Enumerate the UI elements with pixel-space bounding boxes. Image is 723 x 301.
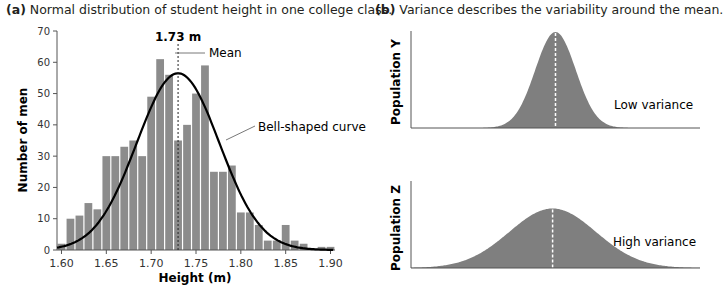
svg-text:1.85: 1.85 (273, 257, 298, 270)
population-z-plot: Population Z High variance (389, 181, 700, 271)
mean-value-label: 1.73 m (155, 30, 201, 44)
svg-text:60: 60 (37, 57, 50, 68)
svg-text:1.80: 1.80 (229, 257, 254, 270)
population-y-label: Population Y (389, 39, 403, 125)
histogram-bar (120, 147, 128, 250)
svg-text:70: 70 (37, 26, 50, 37)
histogram-bar (111, 156, 119, 250)
histogram-bar (201, 65, 209, 250)
svg-text:50: 50 (37, 88, 50, 99)
svg-text:30: 30 (37, 151, 50, 162)
svg-text:1.70: 1.70 (139, 257, 164, 270)
svg-text:1.60: 1.60 (49, 257, 74, 270)
histogram-bar (282, 225, 290, 250)
svg-text:20: 20 (37, 182, 50, 193)
y-axis-label: Number of men (16, 88, 30, 193)
histogram-bar (165, 75, 173, 250)
histogram-bar (102, 156, 110, 250)
histogram-bar (183, 125, 191, 250)
histogram-bar (93, 209, 101, 250)
histogram-bar (76, 216, 84, 250)
histogram-bar (237, 212, 245, 250)
svg-text:10: 10 (37, 213, 50, 224)
svg-text:0: 0 (44, 245, 50, 256)
curve-leader-line (226, 126, 255, 140)
histogram-bar (219, 172, 227, 250)
mean-annotation: Mean (209, 46, 242, 60)
histogram-bar (192, 94, 200, 250)
histogram-bar (255, 225, 263, 250)
low-variance-label: Low variance (614, 98, 693, 112)
svg-text:1.75: 1.75 (184, 257, 209, 270)
histogram-bar (246, 212, 254, 250)
curve-annotation: Bell-shaped curve (258, 120, 366, 134)
histogram-bar (264, 241, 272, 250)
svg-text:1.90: 1.90 (318, 257, 343, 270)
population-z-label: Population Z (389, 185, 403, 271)
histogram-bar (85, 203, 93, 250)
histogram-bar (138, 156, 146, 250)
histogram-bar (147, 97, 155, 250)
high-variance-label: High variance (613, 235, 696, 249)
svg-text:40: 40 (37, 119, 50, 130)
svg-text:1.65: 1.65 (94, 257, 119, 270)
histogram-bar (210, 172, 218, 250)
x-axis-label: Height (m) (159, 271, 232, 285)
population-y-plot: Population Y Low variance (389, 31, 700, 128)
